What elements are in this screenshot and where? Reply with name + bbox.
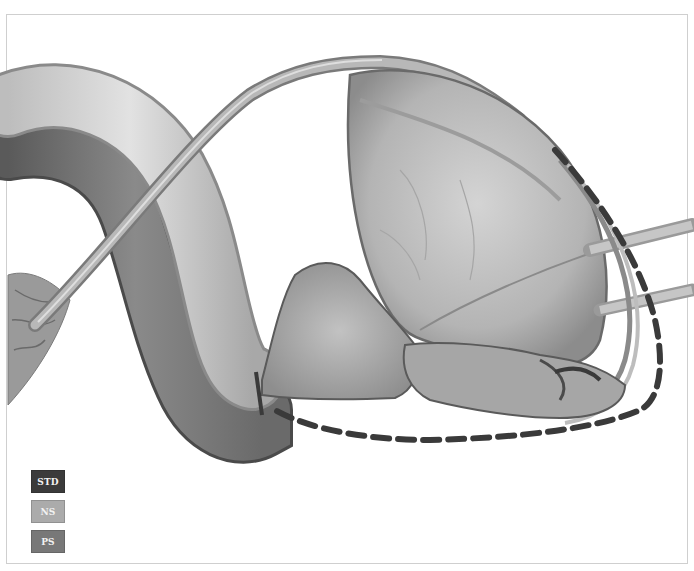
anatomy-illustration bbox=[0, 0, 694, 571]
legend-item-std: STD bbox=[31, 470, 65, 493]
legend-item-ns: NS bbox=[31, 500, 65, 523]
legend: STD NS PS bbox=[31, 470, 65, 553]
legend-item-ps: PS bbox=[31, 530, 65, 553]
